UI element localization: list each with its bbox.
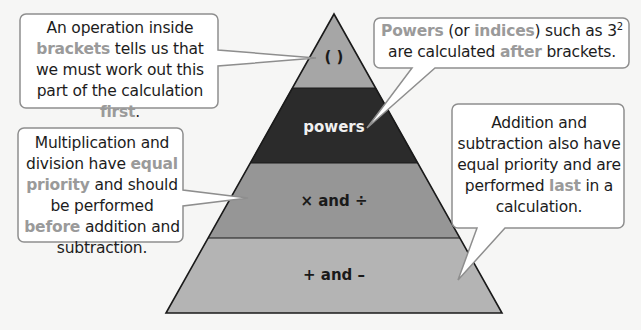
callout-powers-text: Powers (or indices) such as 32 are calcu… bbox=[376, 21, 628, 63]
callout-add-sub-text: Addition and subtraction also have equal… bbox=[456, 113, 622, 218]
tier-powers-label: powers bbox=[284, 118, 384, 136]
tier-brackets-label: ( ) bbox=[304, 48, 364, 66]
highlight-brackets: brackets bbox=[36, 40, 110, 58]
order-of-operations-diagram: ( ) powers × and ÷ + and – An operation … bbox=[0, 0, 641, 330]
callout-mult-div-text: Multiplication and division have equal p… bbox=[22, 133, 182, 259]
tier-add-sub-label: + and – bbox=[274, 266, 394, 284]
highlight-first: first bbox=[100, 103, 135, 121]
highlight-last: last bbox=[549, 177, 581, 195]
callout-brackets-text: An operation inside brackets tells us th… bbox=[24, 18, 216, 123]
highlight-before: before bbox=[24, 218, 80, 236]
tier-mult-div-label: × and ÷ bbox=[274, 192, 394, 210]
highlight-indices: indices bbox=[474, 22, 534, 40]
highlight-after: after bbox=[500, 43, 542, 61]
highlight-powers: Powers bbox=[381, 22, 444, 40]
